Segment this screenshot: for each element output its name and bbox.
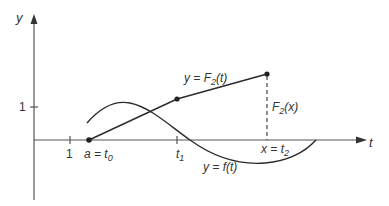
y-axis-label: y — [15, 10, 24, 25]
label-f-curve: y = f(t) — [202, 160, 237, 174]
y-tick-label: 1 — [19, 100, 26, 114]
label-F2-curve: y = F2(t) — [183, 71, 227, 87]
point-t0 — [86, 137, 92, 143]
curve-F2 — [89, 74, 267, 140]
function-diagram: y 1 t 1 a = t0 t1 — [0, 0, 389, 206]
y-axis-arrow-icon — [31, 14, 38, 24]
x-tick-label: 1 — [66, 147, 73, 161]
point-t1 — [174, 96, 179, 101]
label-F2x: F2(x) — [272, 100, 298, 116]
label-t2: x = t2 — [260, 142, 289, 158]
x-axis-arrow-icon — [356, 137, 367, 144]
label-t0: a = t0 — [84, 147, 113, 163]
x-axis-label: t — [369, 135, 374, 150]
label-t1: t1 — [176, 147, 184, 163]
y-axis: y 1 — [15, 10, 38, 200]
point-t2 — [264, 71, 269, 76]
